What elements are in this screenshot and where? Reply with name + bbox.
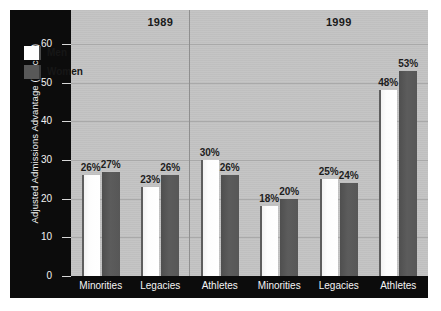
bar-1989-athletes-women [221,175,239,276]
bar-value-label: 26% [157,162,183,173]
legend-label: Men [47,47,67,58]
y-axis-tick [62,237,71,238]
bar-1989-legacies-men [141,187,159,276]
chart-figure: Adjusted Admissions Advantage (percent) … [0,0,441,311]
y-axis-tick [62,199,71,200]
y-axis-tick-label: 30 [12,154,52,165]
x-axis-label-1999-legacies: Legacies [309,280,369,291]
chart-frame: Adjusted Admissions Advantage (percent) … [10,10,428,298]
bar-1999-legacies-women [340,183,358,276]
bar-1999-athletes-women [399,71,417,276]
bar-value-label: 27% [98,159,124,170]
x-axis-label-1999-athletes: Athletes [369,280,429,291]
plot-texture [71,10,428,276]
legend-swatch-women [24,65,39,79]
bar-1989-athletes-men [201,160,219,276]
chart-legend: MenWomen [24,46,119,84]
bar-1999-minorities-women [280,199,298,276]
gridline [71,121,428,122]
y-axis-tick-label: 10 [12,231,52,242]
bar-1989-legacies-women [161,175,179,276]
x-axis-label-1989-legacies: Legacies [131,280,191,291]
panel-year-label-1989: 1989 [71,16,250,28]
gridline [71,160,428,161]
bar-1989-minorities-women [102,172,120,276]
y-axis-tick [62,160,71,161]
y-axis-tick [62,121,71,122]
bar-value-label: 20% [276,186,302,197]
bar-value-label: 23% [137,174,163,185]
y-axis-tick-label: 20 [12,193,52,204]
gridline [71,44,428,45]
bar-value-label: 53% [395,58,421,69]
y-axis-tick-label: 40 [12,115,52,126]
bar-1999-legacies-men [320,179,338,276]
legend-swatch-men [24,46,39,60]
panel-year-headers: 19891999 [71,10,428,36]
bar-value-label: 26% [217,162,243,173]
x-axis-label-1999-minorities: Minorities [250,280,310,291]
panel-year-label-1999: 1999 [250,16,429,28]
bar-value-label: 30% [197,147,223,158]
gridline [71,199,428,200]
plot-area [71,10,428,276]
x-axis-labels: MinoritiesLegaciesAthletesMinoritiesLega… [71,276,428,298]
y-axis-tick [62,44,71,45]
bar-value-label: 24% [336,170,362,181]
x-axis-label-1989-minorities: Minorities [71,280,131,291]
bar-1989-minorities-men [82,175,100,276]
x-axis-label-1989-athletes: Athletes [190,280,250,291]
legend-label: Women [47,66,83,77]
y-axis-tick [62,276,71,277]
panel-divider [189,10,190,298]
y-axis-tick-label: 0 [12,270,52,281]
bar-value-label: 48% [375,77,401,88]
bar-1999-athletes-men [379,90,397,276]
gridline [71,237,428,238]
bar-1999-minorities-men [260,206,278,276]
